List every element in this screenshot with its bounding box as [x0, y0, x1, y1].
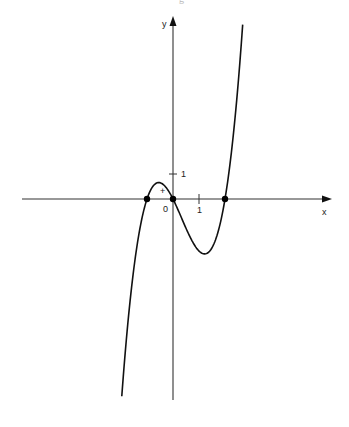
- positive-region-annotation: +: [160, 187, 165, 196]
- y-axis-arrow-icon: [170, 16, 177, 26]
- y-axis: [170, 16, 177, 400]
- root-point: [170, 196, 176, 202]
- root-point: [144, 196, 150, 202]
- x-axis-label: x: [322, 208, 327, 217]
- origin-label: 0: [163, 205, 168, 214]
- cubic-curve: [122, 25, 243, 397]
- cubic-function-plot: [0, 0, 349, 427]
- x-axis: [22, 196, 332, 203]
- x-tick-label-1: 1: [197, 206, 202, 215]
- y-axis-label: y: [162, 20, 167, 29]
- x-axis-arrow-icon: [322, 196, 332, 203]
- y-tick-label-1: 1: [181, 170, 186, 179]
- root-point: [222, 196, 228, 202]
